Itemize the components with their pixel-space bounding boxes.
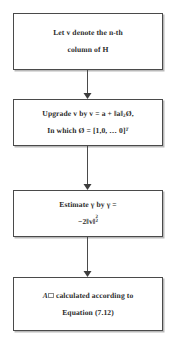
- arrow-node2-to-node3: [83, 146, 92, 190]
- node-2-transpose-superscript: T: [126, 128, 129, 133]
- node-4-line-1-text: calculated according to: [54, 291, 133, 300]
- node-2-norm-a: ‖a‖: [114, 109, 123, 118]
- node-4-line-1: A calculated according to: [14, 292, 162, 300]
- flowchart-node-3: Estimate γ by γ = −2‖v‖222: [13, 190, 163, 237]
- node-3-norm-subscript: 2: [95, 219, 98, 224]
- node-2-line-2: In which Ø = [1,0, … 0]T: [14, 127, 162, 135]
- node-3-line-2: −2‖v‖222: [14, 218, 162, 226]
- arrow-stem-icon: [87, 146, 88, 184]
- node-2-line-1: Upgrade v by v = a + ‖a‖2Ø,: [14, 110, 162, 118]
- flowchart-node-2: Upgrade v by v = a + ‖a‖2Ø, In which Ø =…: [13, 99, 163, 146]
- arrow-node3-to-node4: [83, 237, 92, 277]
- flowchart-diagram: Let v denote the n-th column of H Upgrad…: [0, 0, 176, 351]
- node-2-line-2-prefix: In which Ø =: [47, 126, 93, 135]
- node-1-line-2: column of H: [14, 46, 162, 54]
- node-2-vector: [1,0, … 0]: [93, 126, 126, 135]
- node-2-line-1-suffix: Ø,: [126, 109, 134, 118]
- node-4-line-2: Equation (7.12): [14, 309, 162, 317]
- node-3-norm-exponents: 222: [95, 218, 98, 226]
- node-4-matrix-symbol: A: [43, 291, 48, 300]
- arrow-stem-icon: [87, 70, 88, 93]
- flowchart-node-1: Let v denote the n-th column of H: [13, 13, 163, 70]
- node-2-line-1-prefix: Upgrade v by v = a +: [42, 109, 114, 118]
- node-1-line-1: Let v denote the n-th: [14, 29, 162, 37]
- arrow-node1-to-node2: [83, 70, 92, 99]
- node-3-norm-v: ‖v‖: [86, 217, 95, 226]
- arrow-stem-icon: [87, 237, 88, 271]
- flowchart-node-4: A calculated according to Equation (7.12…: [13, 277, 163, 331]
- node-3-line-1: Estimate γ by γ =: [14, 201, 162, 209]
